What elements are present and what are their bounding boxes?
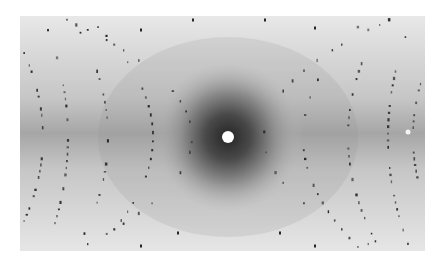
diffraction-spot	[387, 139, 390, 141]
diffraction-spot	[189, 151, 191, 154]
diffraction-spot	[66, 118, 68, 121]
diffraction-spot	[121, 219, 123, 222]
diffraction-spot	[371, 233, 373, 235]
diffraction-spot	[38, 96, 40, 98]
diffraction-spot	[23, 52, 25, 54]
diffraction-spot	[106, 233, 108, 235]
diffraction-spot	[26, 214, 28, 216]
diffraction-spot	[99, 78, 101, 80]
diffraction-spot	[127, 211, 128, 213]
diffraction-spot	[413, 114, 415, 116]
diffraction-spot	[414, 164, 416, 166]
diffraction-spot	[180, 100, 181, 102]
diffraction-spot	[313, 184, 315, 187]
diffraction-spot	[265, 152, 266, 154]
diffraction-spot	[418, 90, 420, 92]
diffraction-spot	[416, 176, 418, 178]
diffraction-spot	[388, 18, 391, 21]
diffraction-spot	[420, 83, 421, 85]
diffraction-spot	[123, 49, 124, 52]
diffraction-spot	[361, 62, 363, 65]
diffraction-spot	[151, 149, 153, 151]
diffraction-spot	[316, 59, 318, 62]
diffraction-spot	[103, 178, 104, 181]
diffraction-spot	[104, 101, 106, 104]
diffraction-spot	[65, 105, 67, 108]
diffraction-spot	[23, 220, 24, 222]
diffraction-spot	[389, 105, 391, 107]
diffraction-spot	[388, 112, 390, 114]
diffraction-spot	[150, 158, 152, 160]
diffraction-spot	[107, 116, 108, 119]
diffraction-spot	[334, 219, 336, 221]
diffraction-spot	[332, 49, 334, 51]
diffraction-spot	[41, 157, 43, 160]
diffraction-spot	[283, 182, 284, 184]
diffraction-spot	[357, 246, 358, 248]
diffraction-spot	[283, 90, 284, 93]
diffraction-spot	[341, 44, 343, 46]
diffraction-spot	[59, 201, 61, 204]
diffraction-spot	[152, 131, 154, 134]
diffraction-spot	[177, 232, 179, 235]
diffraction-spot	[263, 131, 265, 134]
diffraction-spot	[39, 170, 41, 173]
diffraction-spot	[140, 245, 142, 248]
diffraction-spot	[398, 215, 400, 217]
diffraction-spot	[80, 32, 82, 34]
diffraction-spot	[328, 210, 329, 213]
diffraction-spot	[66, 160, 68, 162]
diffraction-spot	[138, 59, 139, 62]
diffraction-spot	[395, 201, 396, 203]
diffraction-spot	[317, 79, 319, 82]
diffraction-spot	[393, 195, 395, 197]
diffraction-spot	[274, 171, 276, 174]
diffraction-spot	[364, 217, 365, 219]
diffraction-spot	[413, 152, 415, 154]
diffraction-spot	[67, 146, 69, 148]
diffraction-spot	[303, 149, 305, 151]
diffraction-spot	[105, 163, 108, 166]
diffraction-spot	[395, 70, 397, 73]
diffraction-spot	[303, 202, 305, 204]
diffraction-spot	[347, 148, 349, 150]
diffraction-spot	[304, 114, 306, 116]
diffraction-spot	[306, 167, 308, 169]
diffraction-spot	[145, 176, 147, 178]
diffraction-spot	[279, 232, 281, 235]
diffraction-spot	[41, 114, 42, 117]
diffraction-spot	[56, 56, 58, 59]
diffraction-spot	[413, 126, 415, 129]
diffraction-spot	[387, 118, 389, 121]
diffraction-spot	[84, 232, 86, 235]
diffraction-spot	[66, 19, 68, 21]
diffraction-spot	[303, 70, 305, 72]
diffraction-spot	[103, 94, 105, 96]
diffraction-spot	[357, 26, 359, 29]
diffraction-spot	[36, 89, 38, 92]
diffraction-spot	[317, 193, 319, 195]
diffraction-spot	[414, 157, 416, 160]
diffraction-spot	[368, 243, 369, 245]
diffraction-spot	[309, 96, 311, 98]
diffraction-spot	[349, 109, 351, 111]
diffraction-spot	[264, 19, 266, 22]
diffraction-spot	[192, 19, 194, 22]
diffraction-spot	[64, 173, 67, 176]
diffraction-spot	[132, 202, 134, 204]
diffraction-spot	[140, 29, 142, 32]
diffraction-spot	[304, 158, 306, 160]
diffraction-spot	[358, 70, 360, 73]
diffraction-spot	[314, 245, 316, 248]
diffraction-spot	[104, 171, 106, 173]
diffraction-spot	[87, 29, 89, 31]
diffraction-spot	[152, 141, 154, 143]
diffraction-spot	[356, 78, 358, 80]
diffraction-spot	[62, 187, 64, 190]
diffraction-spot	[389, 174, 391, 176]
diffraction-spot	[367, 29, 369, 32]
diffraction-spot	[38, 176, 40, 179]
diffraction-spot	[392, 84, 394, 86]
diffraction-spot	[396, 208, 398, 211]
diffraction-spot	[106, 109, 107, 111]
